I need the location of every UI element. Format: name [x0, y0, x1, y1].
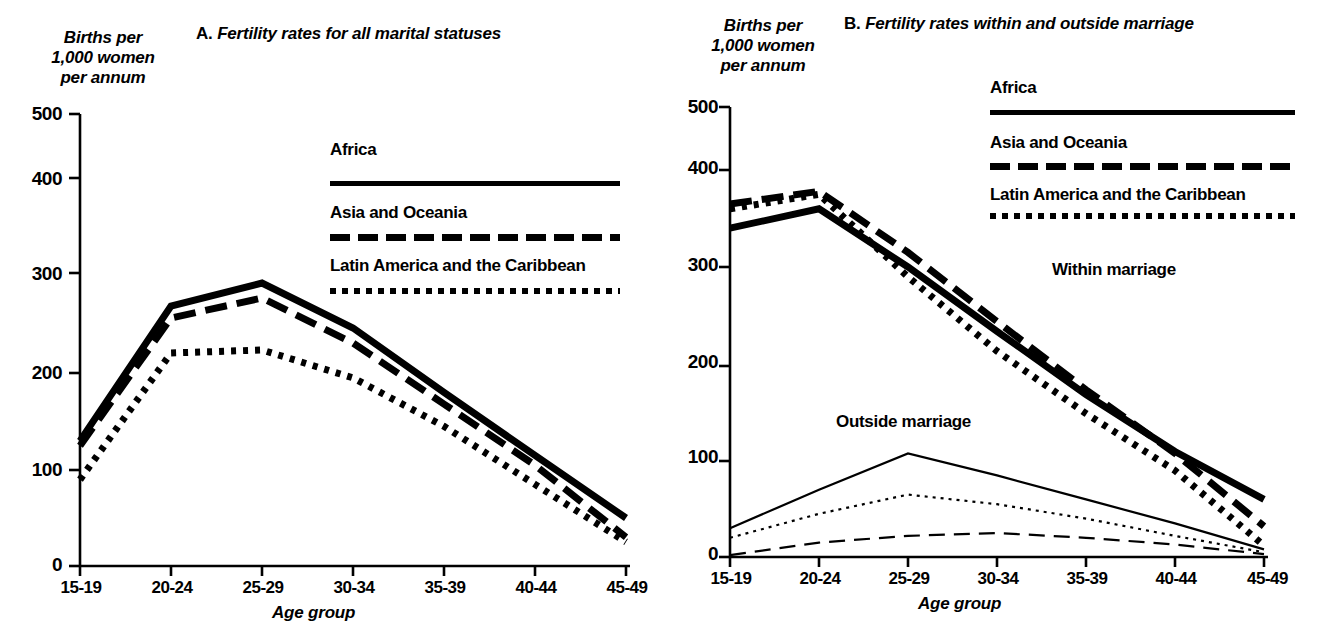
plot-area-b [660, 0, 1320, 634]
panel-b: Births per 1,000 women per annum B. Fert… [660, 0, 1320, 634]
fertility-rates-figure: Births per 1,000 women per annum A. Fert… [0, 0, 1320, 634]
plot-area-a [0, 0, 660, 634]
panel-a: Births per 1,000 women per annum A. Fert… [0, 0, 660, 634]
